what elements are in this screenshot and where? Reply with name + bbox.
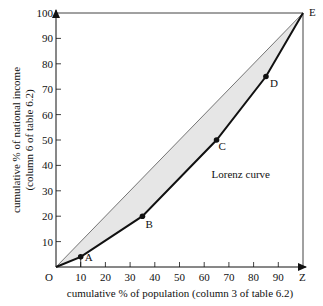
origin-label: O	[45, 271, 53, 283]
x-axis-arrow	[298, 263, 307, 271]
x-tick-label: 70	[223, 271, 235, 283]
point-d-label: D	[270, 77, 278, 89]
z-label: Z	[299, 271, 306, 283]
y-tick-label: 60	[42, 109, 54, 121]
y-axis-title-line-2: (column 6 of table 6.2)	[23, 89, 36, 190]
y-tick-label: 90	[42, 32, 54, 44]
x-tick-label: 30	[125, 271, 137, 283]
equality-line	[56, 13, 303, 267]
y-tick-label: 20	[42, 210, 54, 222]
point-d-marker	[263, 74, 269, 80]
point-c-label: C	[219, 140, 226, 152]
x-tick-label: 10	[75, 271, 87, 283]
x-tick-label: 80	[248, 271, 260, 283]
point-a-label: A	[85, 251, 93, 263]
lorenz-chart: 102030405060708090102030405060708090100 …	[0, 0, 323, 306]
y-tick-label: 100	[37, 7, 54, 19]
y-tick-label: 70	[42, 83, 54, 95]
point-e-label: E	[309, 6, 316, 18]
point-b-label: B	[145, 218, 152, 230]
x-axis-title: cumulative % of population (column 3 of …	[67, 287, 294, 300]
point-a-marker	[78, 254, 84, 260]
y-axis-arrow	[52, 9, 60, 18]
x-tick-label: 90	[273, 271, 285, 283]
x-tick-label: 60	[199, 271, 211, 283]
y-tick-label: 30	[42, 185, 54, 197]
x-tick-label: 20	[100, 271, 112, 283]
point-b-marker	[140, 213, 146, 219]
y-tick-label: 50	[42, 134, 54, 146]
y-axis-title-line-1: cumulative % of national income	[10, 67, 22, 213]
y-tick-label: 10	[42, 236, 54, 248]
lorenz-curve-annotation: Lorenz curve	[212, 168, 270, 180]
x-tick-label: 40	[149, 271, 161, 283]
y-tick-label: 80	[42, 58, 54, 70]
y-tick-label: 40	[42, 159, 54, 171]
x-tick-label: 50	[174, 271, 186, 283]
